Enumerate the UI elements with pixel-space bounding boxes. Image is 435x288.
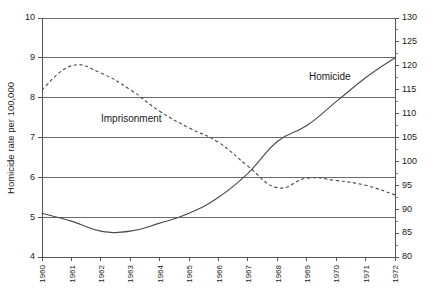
- x-tick-label: 1970: [332, 264, 341, 282]
- x-tick-label: 1964: [156, 264, 165, 282]
- x-tick-label: 1961: [68, 264, 77, 282]
- grid-lines: [42, 18, 395, 217]
- left-tick-label: 5: [30, 212, 35, 222]
- y-axis-title: Homicide rate per 100,000: [5, 82, 16, 194]
- right-tick-label: 115: [402, 84, 416, 94]
- x-axis-ticks: 1960196119621963196419651966196719681969…: [38, 257, 400, 283]
- imprisonment-line: [42, 65, 395, 195]
- right-tick-label: 105: [402, 132, 417, 142]
- x-tick-label: 1971: [362, 264, 371, 282]
- x-tick-label: 1965: [185, 264, 194, 282]
- x-tick-label: 1972: [391, 264, 400, 282]
- x-tick-label: 1968: [274, 264, 283, 282]
- right-tick-label: 110: [402, 108, 416, 118]
- left-tick-label: 9: [30, 52, 35, 62]
- x-tick-label: 1969: [303, 264, 312, 282]
- series-annotation-label: Homicide: [309, 71, 351, 82]
- x-tick-label: 1966: [215, 264, 224, 282]
- x-tick-label: 1960: [38, 264, 47, 282]
- x-tick-label: 1963: [126, 264, 135, 282]
- right-tick-label: 120: [402, 60, 417, 70]
- left-tick-label: 7: [30, 132, 35, 142]
- right-tick-label: 80: [402, 251, 412, 261]
- left-tick-label: 4: [30, 251, 35, 261]
- chart-canvas: 45678910 80859095100105110115120125130 1…: [0, 0, 435, 288]
- right-tick-label: 100: [402, 156, 417, 166]
- right-tick-label: 90: [402, 204, 412, 214]
- x-tick-label: 1967: [244, 264, 253, 282]
- chart-figure: 45678910 80859095100105110115120125130 1…: [0, 0, 435, 288]
- left-axis-ticks: 45678910: [25, 12, 42, 261]
- right-axis-ticks: 80859095100105110115120125130: [395, 12, 417, 261]
- right-tick-label: 95: [402, 180, 412, 190]
- homicide-line: [42, 58, 395, 233]
- series-annotation-label: Imprisonment: [101, 113, 162, 124]
- left-tick-label: 6: [30, 172, 35, 182]
- x-tick-label: 1962: [97, 264, 106, 282]
- right-tick-label: 125: [402, 36, 417, 46]
- series-layer: [42, 58, 395, 233]
- left-tick-label: 8: [30, 92, 35, 102]
- right-tick-label: 130: [402, 12, 417, 22]
- right-tick-label: 85: [402, 227, 412, 237]
- left-tick-label: 10: [25, 12, 35, 22]
